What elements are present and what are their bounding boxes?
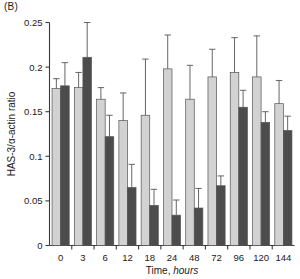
bar	[253, 77, 262, 246]
y-tick-label: 0.25	[24, 17, 43, 28]
x-axis-title: Time, hours	[146, 265, 198, 276]
chart-container: (B) 00.050.10.150.20.25 0361218244872961…	[0, 0, 300, 279]
bar	[105, 137, 114, 246]
bar	[52, 89, 61, 246]
bar	[74, 88, 83, 246]
bar	[239, 107, 248, 245]
y-tick-label: 0.2	[29, 62, 42, 73]
x-tick-label: 48	[189, 252, 200, 263]
x-tick-label: 96	[234, 252, 245, 263]
x-tick-label: 18	[144, 252, 155, 263]
y-axis: 00.050.10.150.20.25	[24, 17, 50, 251]
bar	[97, 99, 106, 245]
bar	[275, 104, 284, 246]
y-tick-label: 0.1	[29, 151, 42, 162]
bar	[261, 122, 270, 245]
x-tick-label: 6	[103, 252, 108, 263]
y-tick-label: 0.15	[24, 106, 43, 117]
bar-chart: 00.050.10.150.20.25 03612182448729612014…	[0, 0, 300, 279]
bar	[83, 57, 92, 245]
bar	[194, 208, 203, 245]
x-tick-label: 3	[80, 252, 85, 263]
bar	[230, 72, 239, 245]
y-axis-title: HAS-3/α-actin ratio	[6, 91, 17, 176]
bar	[283, 130, 292, 245]
bar	[186, 99, 195, 245]
y-tick-label: 0.05	[24, 195, 43, 206]
x-tick-label: 12	[122, 252, 133, 263]
x-tick-label: 0	[58, 252, 63, 263]
bar	[141, 115, 150, 245]
bar	[208, 77, 217, 246]
y-tick-label: 0	[37, 240, 42, 251]
bar	[61, 86, 70, 246]
bar-series	[52, 57, 292, 245]
panel-label: (B)	[4, 1, 18, 12]
x-axis: 036121824487296120144	[50, 246, 295, 263]
x-tick-label: 144	[275, 252, 291, 263]
x-tick-label: 120	[253, 252, 269, 263]
bar	[127, 188, 136, 246]
bar	[172, 215, 181, 245]
bar	[163, 69, 172, 246]
bar	[119, 121, 128, 246]
bar	[150, 205, 159, 245]
x-tick-label: 72	[211, 252, 222, 263]
bar	[217, 186, 226, 246]
x-tick-label: 24	[167, 252, 178, 263]
